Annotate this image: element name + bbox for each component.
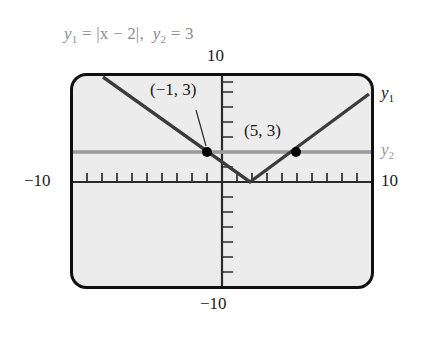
axis-label-top: 10 [207, 46, 224, 66]
title-eq1: = |x − 2|, [77, 24, 143, 43]
point-label-5-3: (5, 3) [244, 121, 281, 141]
curve-label-y2: y2 [381, 140, 394, 161]
title-y1-var: y [64, 24, 72, 43]
curve-label-y1-var: y [381, 83, 389, 102]
point-label-minus1-3: (−1, 3) [150, 80, 196, 100]
curve-label-y1: y1 [381, 83, 394, 104]
title-y2-var: y [153, 24, 161, 43]
figure-root: y1 = |x − 2|, y2 = 3 [0, 0, 421, 338]
title-eq2: = 3 [166, 24, 193, 43]
figure-title: y1 = |x − 2|, y2 = 3 [64, 24, 194, 45]
curve-label-y2-sub: 2 [389, 149, 395, 161]
intersection-point-5-3 [291, 147, 301, 157]
curve-label-y1-sub: 1 [389, 92, 395, 104]
axis-label-right: 10 [381, 171, 398, 191]
intersection-point-minus1-3 [202, 147, 212, 157]
axis-label-left: −10 [24, 171, 51, 191]
curve-label-y2-var: y [381, 140, 389, 159]
axis-label-bottom: −10 [200, 294, 227, 314]
